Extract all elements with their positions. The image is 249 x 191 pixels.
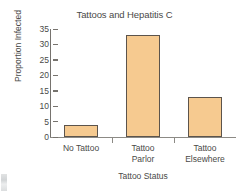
x-category-label-line: Tattoo bbox=[112, 143, 174, 154]
x-category-label-tattoo-elsewhere: TattooElsewhere bbox=[174, 143, 236, 165]
y-tick-20: 20 bbox=[26, 70, 58, 80]
y-tick-5: 5 bbox=[26, 117, 58, 127]
x-category-label-line: Elsewhere bbox=[174, 154, 236, 165]
y-tick-0: 0 bbox=[26, 132, 58, 142]
scan-artifact bbox=[1, 174, 7, 191]
y-tick-mark bbox=[53, 121, 58, 122]
bar-chart-figure: Tattoos and Hepatitis C Proportion Infec… bbox=[0, 0, 249, 191]
chart-title: Tattoos and Hepatitis C bbox=[0, 9, 249, 20]
y-tick-label: 35 bbox=[40, 24, 49, 34]
y-tick-10: 10 bbox=[26, 101, 58, 111]
y-tick-label: 20 bbox=[40, 70, 49, 80]
y-tick-mark bbox=[53, 29, 58, 30]
plot-area: 05101520253035 bbox=[50, 28, 236, 140]
x-axis-line bbox=[50, 137, 236, 138]
bar-no-tattoo[interactable] bbox=[64, 125, 99, 137]
y-tick-label: 5 bbox=[44, 117, 49, 127]
x-category-label-no-tattoo: No Tattoo bbox=[50, 143, 112, 154]
x-axis-title: Tattoo Status bbox=[50, 171, 236, 181]
x-category-label-tattoo-parlor: TattooParlor bbox=[112, 143, 174, 165]
y-tick-mark bbox=[53, 137, 58, 138]
y-tick-mark bbox=[53, 75, 58, 76]
y-tick-label: 0 bbox=[44, 132, 49, 142]
x-category-label-line: Tattoo bbox=[174, 143, 236, 154]
y-tick-label: 10 bbox=[40, 101, 49, 111]
y-tick-mark bbox=[53, 44, 58, 45]
y-tick-35: 35 bbox=[26, 24, 58, 34]
y-tick-30: 30 bbox=[26, 39, 58, 49]
y-tick-label: 25 bbox=[40, 55, 49, 65]
x-category-label-line: Parlor bbox=[112, 154, 174, 165]
x-category-label-line: No Tattoo bbox=[50, 143, 112, 154]
y-tick-label: 15 bbox=[40, 86, 49, 96]
y-tick-25: 25 bbox=[26, 55, 58, 65]
bar-tattoo-parlor[interactable] bbox=[126, 35, 161, 137]
y-tick-mark bbox=[53, 59, 58, 60]
y-tick-mark bbox=[53, 106, 58, 107]
y-axis-title: Proportion Infected bbox=[13, 0, 23, 106]
y-tick-15: 15 bbox=[26, 86, 58, 96]
y-tick-mark bbox=[53, 90, 58, 91]
y-tick-label: 30 bbox=[40, 39, 49, 49]
bar-tattoo-elsewhere[interactable] bbox=[188, 97, 223, 137]
